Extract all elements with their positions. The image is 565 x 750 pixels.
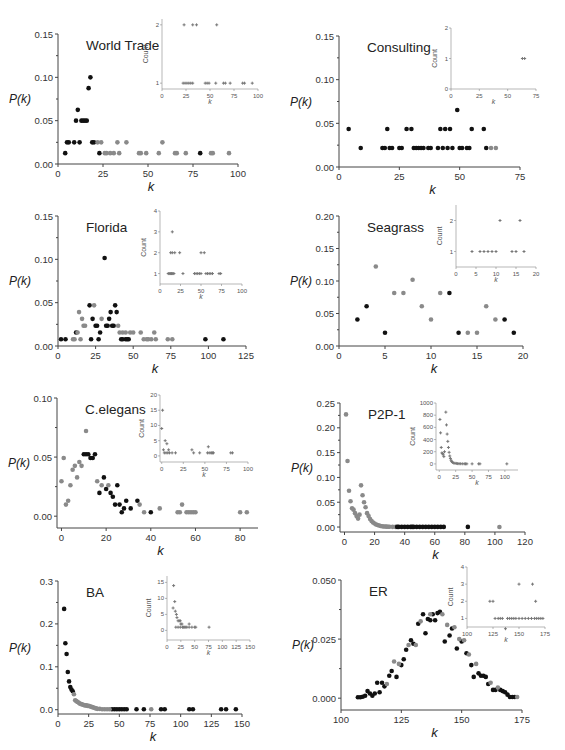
inset-x-tick-label: 100 [253, 93, 264, 99]
inset-x-tick-label: 25 [177, 288, 184, 294]
y-tick-label: 0.15 [35, 29, 54, 40]
data-point [107, 317, 112, 322]
data-point [428, 146, 433, 151]
data-point [102, 256, 107, 261]
y-axis-label: P(k) [8, 456, 30, 470]
inset-x-tick-label: 150 [245, 644, 256, 650]
y-axis-label: P(k) [290, 274, 312, 288]
x-tick-label: 15 [472, 350, 483, 361]
data-point [484, 304, 489, 309]
data-point [460, 146, 465, 151]
data-point [397, 662, 402, 667]
x-tick-label: 125 [238, 350, 254, 361]
data-point [157, 151, 162, 156]
data-point [75, 330, 80, 335]
data-point [64, 652, 69, 657]
inset-x-tick-label: 175 [540, 631, 551, 637]
data-point [99, 140, 104, 145]
data-point [106, 483, 111, 488]
data-point [355, 317, 360, 322]
data-point [119, 510, 124, 515]
data-point [162, 707, 167, 712]
data-point [175, 151, 180, 156]
data-point [66, 498, 71, 503]
data-point [445, 146, 450, 151]
panel-title: ER [369, 584, 388, 599]
y-axis-label: P(k) [290, 95, 312, 109]
data-point [97, 491, 102, 496]
inset-x-tick-label: 125 [231, 644, 242, 650]
data-point [390, 146, 395, 151]
inset-x-tick-label: 75 [223, 466, 230, 472]
inset-y-label: Count [409, 427, 416, 446]
data-point [484, 675, 489, 680]
data-point [456, 330, 461, 335]
data-point [99, 317, 104, 322]
x-tick-label: 20 [518, 350, 529, 361]
data-point [126, 337, 131, 342]
data-point [346, 127, 351, 132]
x-tick-label: 25 [90, 350, 101, 361]
x-tick-label: 75 [188, 168, 199, 179]
x-tick-label: 100 [487, 536, 503, 547]
data-point [111, 495, 116, 500]
y-tick-label: 0.10 [35, 72, 54, 83]
inset-y-tick-label: 15 [157, 579, 164, 585]
inset-y-label: Count [138, 419, 145, 438]
data-point [67, 140, 72, 145]
data-point [95, 323, 100, 328]
data-point [99, 483, 104, 488]
data-point [96, 337, 101, 342]
data-point [496, 685, 501, 690]
data-point [198, 151, 203, 156]
data-point [410, 277, 415, 282]
y-tick-label: 0.00 [35, 159, 54, 170]
figure-canvas: 02550751000.000.050.100.15P(k)kWorld Tra… [0, 0, 565, 750]
x-tick-label: 60 [429, 536, 440, 547]
data-point [441, 525, 446, 530]
data-point [356, 516, 361, 521]
y-axis-label: P(k) [291, 461, 313, 475]
y-axis-label: P(k) [292, 638, 314, 652]
data-point [357, 512, 362, 517]
data-point [92, 303, 97, 308]
data-point [124, 140, 129, 145]
x-tick-label: 125 [393, 714, 409, 725]
data-point [84, 429, 89, 434]
data-point [409, 127, 414, 132]
y-tick-label: 0.25 [317, 398, 336, 409]
data-point [149, 337, 154, 342]
data-point [98, 330, 103, 335]
inset-x-tick-label: 50 [504, 93, 511, 99]
data-point [358, 146, 363, 151]
inset-x-tick-label: 25 [183, 93, 190, 99]
data-point [363, 505, 368, 510]
inset-y-tick-label: 20 [150, 392, 157, 398]
data-point [347, 489, 352, 494]
data-point [63, 337, 68, 342]
data-point [466, 330, 471, 335]
panel-title: Seagrass [367, 220, 424, 235]
data-point [113, 502, 118, 507]
data-point [76, 108, 81, 113]
x-tick-label: 0 [342, 536, 347, 547]
x-tick-label: 80 [235, 532, 246, 543]
data-point [515, 695, 520, 700]
data-point [114, 310, 119, 315]
data-point [128, 506, 133, 511]
inset-y-label: Count [447, 588, 454, 607]
inset-x-tick-label: 100 [237, 288, 248, 294]
data-point [438, 291, 443, 296]
data-point [421, 612, 426, 617]
x-tick-label: 50 [114, 718, 125, 729]
data-point [452, 625, 457, 630]
data-point [466, 525, 471, 530]
data-point [134, 707, 139, 712]
y-tick-label: 0.10 [316, 276, 335, 287]
data-point [149, 707, 154, 712]
inset-x-tick-label: 125 [488, 631, 499, 637]
x-tick-label: 0 [59, 532, 64, 543]
data-point [113, 303, 118, 308]
data-point [489, 146, 494, 151]
inset-x-label: k [494, 276, 498, 283]
